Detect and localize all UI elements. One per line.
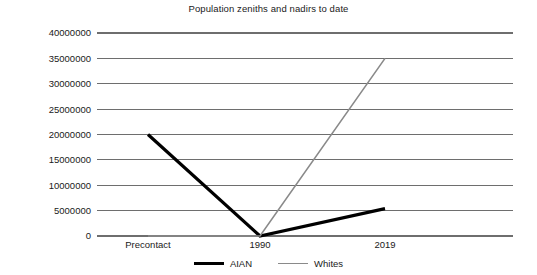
y-axis-tick-label: 5000000 — [54, 205, 91, 216]
y-axis-tick-label: 0 — [86, 230, 91, 241]
x-axis-tick-labels: Precontact19902019 — [125, 239, 395, 250]
chart-container: Population zeniths and nadirs to date 05… — [0, 0, 537, 275]
legend-label-whites: Whites — [314, 258, 343, 269]
x-axis-tick-label: 2019 — [374, 239, 395, 250]
legend-label-aian: AIAN — [230, 258, 252, 269]
x-axis-tick-label: Precontact — [125, 239, 171, 250]
x-axis-tick-label: 1990 — [249, 239, 270, 250]
y-axis-tick-label: 15000000 — [49, 154, 91, 165]
chart-legend: AIAN Whites — [0, 258, 537, 269]
y-axis-tick-label: 30000000 — [49, 78, 91, 89]
y-axis-tick-label: 35000000 — [49, 53, 91, 64]
y-axis-tick-label: 25000000 — [49, 104, 91, 115]
y-axis-tick-label: 20000000 — [49, 129, 91, 140]
y-axis-tick-label: 10000000 — [49, 180, 91, 191]
data-series — [148, 58, 385, 236]
gridlines — [97, 33, 513, 236]
chart-plot-area: 0500000010000000150000002000000025000000… — [0, 0, 537, 275]
legend-swatch-aian-icon — [194, 262, 224, 265]
legend-item-aian: AIAN — [194, 258, 252, 269]
legend-swatch-whites-icon — [278, 263, 308, 265]
series-line-whites — [148, 58, 385, 236]
y-axis-tick-label: 40000000 — [49, 27, 91, 38]
y-axis-tick-labels: 0500000010000000150000002000000025000000… — [49, 27, 91, 241]
legend-item-whites: Whites — [278, 258, 343, 269]
